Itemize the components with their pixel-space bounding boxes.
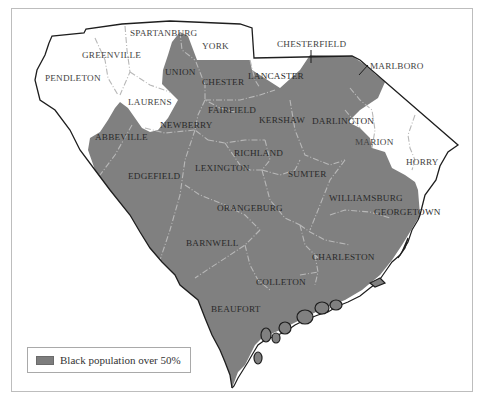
map-legend: Black population over 50% [27,347,191,373]
label-fairfield: FAIRFIELD [208,105,256,115]
label-pendleton: PENDLETON [45,73,101,83]
legend-label: Black population over 50% [60,354,181,366]
label-lexington: LEXINGTON [195,163,250,173]
label-york: YORK [202,41,229,51]
label-greenville: GREENVILLE [82,50,141,60]
label-kershaw: KERSHAW [259,115,305,125]
label-lancaster: LANCASTER [248,71,305,81]
label-charleston: CHARLESTON [312,252,375,262]
label-laurens: LAURENS [128,97,172,107]
label-georgetown: GEORGETOWN [374,207,441,217]
label-chester: CHESTER [202,77,245,87]
label-barnwell: BARNWELL [186,238,239,248]
label-beaufort: BEAUFORT [211,304,261,314]
label-richland: RICHLAND [234,148,283,158]
label-spartanburg: SPARTANBURG [130,28,198,38]
south-carolina-map: SPARTANBURG YORK CHESTERFIELD MARLBORO G… [0,0,479,406]
label-colleton: COLLETON [256,277,306,287]
label-newberry: NEWBERRY [160,120,213,130]
label-marion: MARION [355,137,394,147]
label-williamsburg: WILLIAMSBURG [329,193,403,203]
label-orangeburg: ORANGEBURG [217,203,283,213]
label-edgefield: EDGEFIELD [128,171,180,181]
label-chesterfield: CHESTERFIELD [277,39,346,49]
legend-swatch [36,356,54,365]
label-marlboro: MARLBORO [370,61,424,71]
label-horry: HORRY [406,157,439,167]
label-darlington: DARLINGTON [312,116,374,126]
label-union: UNION [165,67,196,77]
label-sumter: SUMTER [288,169,327,179]
label-abbeville: ABBEVILLE [95,132,148,142]
